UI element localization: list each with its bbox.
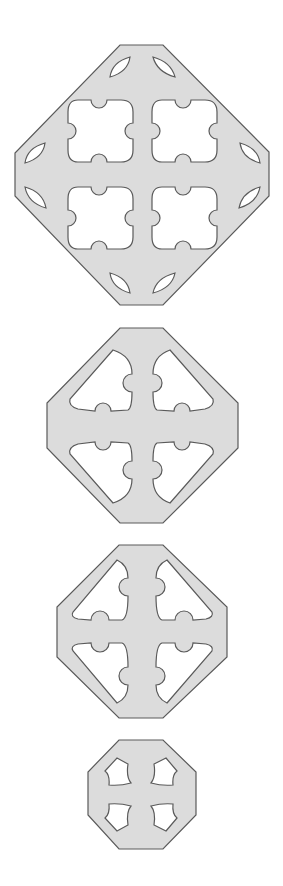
square-notched-hole bbox=[68, 187, 133, 249]
square-notched-hole bbox=[152, 100, 217, 162]
plate-2 bbox=[47, 328, 238, 523]
square-notched-hole bbox=[152, 187, 217, 249]
plate-1 bbox=[15, 45, 269, 305]
plate-3 bbox=[57, 545, 227, 718]
plate-4 bbox=[88, 740, 196, 849]
plates-diagram bbox=[0, 0, 283, 886]
square-notched-hole bbox=[68, 100, 133, 162]
